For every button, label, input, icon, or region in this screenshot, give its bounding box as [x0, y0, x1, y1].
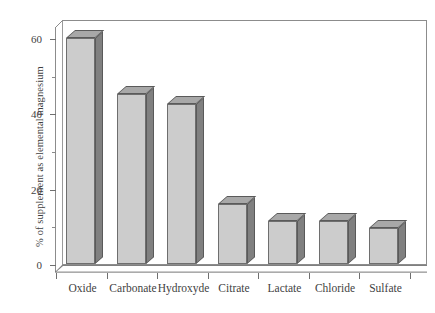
- bar-side: [95, 31, 103, 264]
- y-tick-label: 20: [31, 184, 42, 196]
- bar: [369, 228, 398, 264]
- x-tick: [56, 273, 57, 279]
- y-tick-minor: [52, 152, 56, 153]
- bar-side: [297, 214, 305, 264]
- bar-face: [117, 94, 146, 264]
- y-tick-minor: [52, 77, 56, 78]
- bar-chart-figure: % of supplement as elemental magnesium 0…: [0, 0, 435, 313]
- y-tick-major: 0: [50, 265, 56, 266]
- x-tick-label: Hydroxyde: [158, 282, 210, 294]
- bar-face: [369, 228, 398, 264]
- y-tick-label: 40: [31, 108, 42, 120]
- x-tick: [258, 273, 259, 279]
- axis-top-left-connector: [55, 20, 64, 29]
- x-tick-label: Citrate: [218, 282, 249, 294]
- plot-floor: [55, 265, 427, 273]
- bar-face: [268, 221, 297, 264]
- x-tick: [208, 273, 209, 279]
- y-tick-label: 60: [31, 33, 42, 45]
- bar-face: [218, 204, 247, 264]
- x-tick: [359, 273, 360, 279]
- x-tick: [107, 273, 108, 279]
- bar-side: [247, 197, 255, 264]
- bar: [117, 94, 146, 264]
- y-tick-label: 0: [37, 259, 43, 271]
- x-tick: [309, 273, 310, 279]
- bar: [268, 221, 297, 264]
- bar: [167, 104, 196, 264]
- bar: [66, 38, 95, 264]
- x-tick-label: Oxide: [68, 282, 96, 294]
- bar-face: [66, 38, 95, 264]
- bar-face: [167, 104, 196, 264]
- y-tick-major: 40: [50, 114, 56, 115]
- x-tick: [410, 273, 411, 279]
- y-tick-minor: [52, 227, 56, 228]
- x-tick-label: Carbonate: [109, 282, 156, 294]
- x-tick-label: Sulfate: [369, 282, 402, 294]
- bar: [319, 221, 348, 264]
- y-tick-major: 20: [50, 190, 56, 191]
- bar-side: [146, 87, 154, 264]
- bar-face: [319, 221, 348, 264]
- x-tick-label: Lactate: [268, 282, 302, 294]
- x-tick-label: Chloride: [315, 282, 355, 294]
- bar-side: [398, 221, 406, 264]
- bar: [218, 204, 247, 264]
- plot-area: 0204060 OxideCarbonateHydroxydeCitrateLa…: [55, 20, 427, 272]
- y-axis-line: [55, 27, 56, 272]
- bar-side: [196, 97, 204, 264]
- bar-side: [348, 214, 356, 264]
- y-tick-major: 60: [50, 39, 56, 40]
- x-tick: [157, 273, 158, 279]
